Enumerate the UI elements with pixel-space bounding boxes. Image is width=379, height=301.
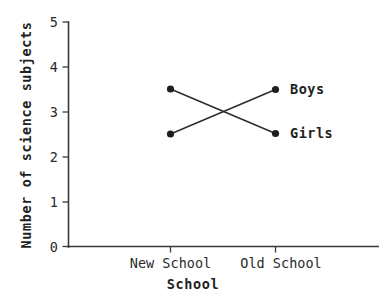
- y-tick-label-2: 2: [50, 149, 58, 165]
- line-chart-canvas: 5 4 3 2 1 0 New School Old School Boys G…: [0, 0, 379, 301]
- y-tick-label-0: 0: [50, 239, 58, 255]
- y-tick-label-5: 5: [50, 14, 58, 30]
- series-label-girls: Girls: [290, 125, 333, 141]
- chart-figure: 5 4 3 2 1 0 New School Old School Boys G…: [0, 0, 379, 301]
- x-tick-label-old-school: Old School: [240, 255, 321, 271]
- x-axis-title: School: [167, 276, 219, 292]
- series-girls: [167, 86, 279, 138]
- y-tick-label-1: 1: [50, 194, 58, 210]
- y-tick-label-4: 4: [50, 59, 58, 75]
- series-girls-point-new-school: [167, 130, 174, 137]
- y-axis-ticks: [63, 22, 69, 247]
- y-axis-title: Number of science subjects: [18, 22, 34, 249]
- x-axis-ticks: [171, 247, 276, 253]
- series-boys-point-new-school: [167, 85, 174, 92]
- y-tick-label-3: 3: [50, 104, 58, 120]
- series-girls-point-old-school: [272, 86, 279, 93]
- series-label-boys: Boys: [290, 81, 325, 97]
- x-tick-label-new-school: New School: [130, 255, 211, 271]
- series-boys-point-old-school: [272, 130, 279, 137]
